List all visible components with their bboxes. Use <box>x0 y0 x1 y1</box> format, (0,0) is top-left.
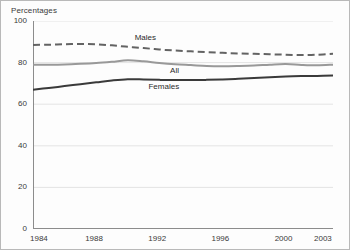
x-tick-label: 1988 <box>85 234 103 243</box>
x-tick-label: 2003 <box>314 234 332 243</box>
series-line-males <box>33 44 333 55</box>
x-tick-label: 1992 <box>148 234 166 243</box>
y-tick-label: 80 <box>3 58 27 67</box>
y-tick-label: 20 <box>3 182 27 191</box>
y-tick-label: 40 <box>3 141 27 150</box>
y-tick-label: 60 <box>3 99 27 108</box>
series-line-females <box>33 76 333 90</box>
x-tick-label: 2000 <box>275 234 293 243</box>
line-chart-svg <box>33 21 333 229</box>
plot-area <box>33 21 333 229</box>
x-tick-label: 1984 <box>30 234 48 243</box>
chart-frame: Percentages 100806040200 198419881992199… <box>0 0 350 250</box>
chart-title: Percentages <box>11 6 57 15</box>
y-tick-label: 100 <box>3 16 27 25</box>
series-line-all <box>33 60 333 66</box>
y-tick-label: 0 <box>3 224 27 233</box>
x-tick-label: 1996 <box>211 234 229 243</box>
